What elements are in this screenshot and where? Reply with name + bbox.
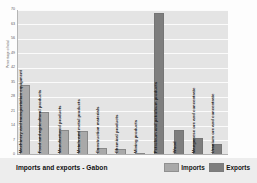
legend-color-swatch bbox=[209, 163, 224, 172]
y-axis-tick-label: 42 bbox=[4, 66, 15, 70]
bar-series-layer: Machinery and transportation equipmentFo… bbox=[18, 10, 228, 155]
bar-category-label: Chemical products bbox=[115, 115, 119, 154]
legend-label: Exports bbox=[226, 164, 250, 171]
bar-group: Manganese ore and concentrate bbox=[191, 10, 210, 155]
y-axis-tick-label: 21 bbox=[4, 110, 15, 114]
bar-category-label: Manufactured products bbox=[57, 106, 61, 154]
y-axis-tick-label: 28 bbox=[4, 95, 15, 99]
y-axis-tick-label: 70 bbox=[4, 8, 15, 12]
bar-group: Metals and metal products bbox=[76, 10, 95, 155]
x-axis-baseline bbox=[17, 154, 228, 155]
bar-category-label: Machinery and transportation equipment bbox=[19, 70, 23, 153]
bar-category-label: Wood bbox=[172, 142, 176, 154]
bar-category-label: Food and agricultural products bbox=[38, 90, 42, 154]
bar-group: Uranium ore and concentrate bbox=[210, 10, 228, 155]
legend-item[interactable]: Exports bbox=[209, 163, 250, 172]
y-axis-tick-label: 49 bbox=[4, 52, 15, 56]
bar-group: Food and agricultural products bbox=[37, 10, 56, 155]
bar-category-label: Petroleum and petroleum products bbox=[153, 82, 157, 153]
legend-color-swatch bbox=[164, 163, 179, 172]
bar-group: Wood bbox=[171, 10, 190, 155]
bar-group: Petroleum and petroleum products bbox=[152, 10, 171, 155]
y-axis-tick-label: 63 bbox=[4, 23, 15, 27]
bar-category-label: Construction materials bbox=[96, 107, 100, 154]
bar-category-label: Metals and metal products bbox=[77, 99, 81, 153]
y-axis-tick-label: 0 bbox=[4, 153, 15, 157]
y-axis-tick-labels: 07142128354249566370 bbox=[4, 10, 15, 155]
bar-group: Construction materials bbox=[95, 10, 114, 155]
y-axis-tick-label: 35 bbox=[4, 81, 15, 85]
legend-item[interactable]: Imports bbox=[164, 163, 205, 172]
bar-category-label: Mining products bbox=[134, 120, 138, 153]
plot-area: Machinery and transportation equipmentFo… bbox=[17, 10, 228, 155]
y-axis-tick-label: 7 bbox=[4, 139, 15, 143]
bar-group: Machinery and transportation equipment bbox=[18, 10, 37, 155]
legend-label: Imports bbox=[181, 164, 204, 171]
bar-category-label: Uranium ore and concentrate bbox=[211, 94, 215, 154]
y-axis-tick-label: 56 bbox=[4, 37, 15, 41]
bar-group: Mining products bbox=[133, 10, 152, 155]
chart-title: Imports and exports - Gabon bbox=[16, 164, 107, 171]
bar-category-label: Manganese ore and concentrate bbox=[192, 88, 196, 154]
chart-legend: ImportsExports bbox=[164, 163, 250, 172]
chart-footer: Imports and exports - Gabon ImportsExpor… bbox=[0, 158, 257, 183]
chart-figure: Percentage of total 07142128354249566370… bbox=[0, 0, 257, 183]
bar-group: Chemical products bbox=[114, 10, 133, 155]
y-axis-tick-label: 14 bbox=[4, 124, 15, 128]
bar-group: Manufactured products bbox=[56, 10, 75, 155]
